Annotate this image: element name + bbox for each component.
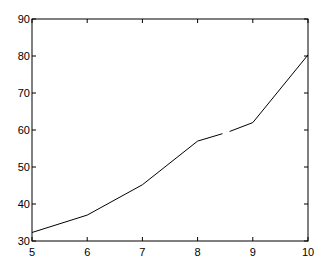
y-tick-label: 50 [18,161,30,173]
x-tick-label: 7 [139,246,145,258]
y-tick-label: 40 [18,198,30,210]
x-tick-label: 9 [250,246,256,258]
x-tick-label: 6 [84,246,90,258]
line-chart: 5678910 30405060708090 [0,0,328,269]
y-tick-label: 30 [18,235,30,247]
x-tick-label: 10 [302,246,314,258]
y-tick-label: 90 [18,13,30,25]
x-tick-label: 8 [195,246,201,258]
plot-area [32,19,308,241]
y-tick-label: 60 [18,124,30,136]
y-tick-label: 70 [18,87,30,99]
y-tick-label: 80 [18,50,30,62]
x-tick-label: 5 [29,246,35,258]
